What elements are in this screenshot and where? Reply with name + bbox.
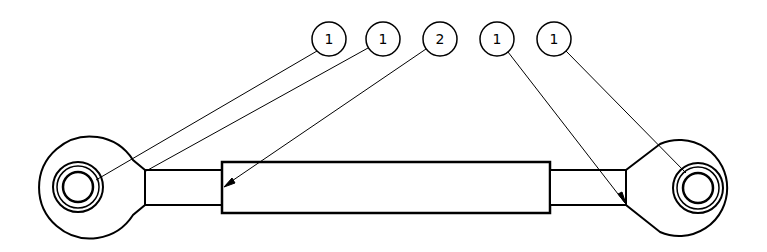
- left-threaded-rod: [145, 170, 222, 205]
- right-threaded-rod: [550, 170, 626, 205]
- balloon-1: 1: [312, 22, 346, 56]
- balloon-label: 1: [325, 31, 334, 47]
- connecting-tube: [222, 162, 550, 213]
- balloon-2: 1: [366, 22, 400, 56]
- balloon-label: 1: [379, 31, 388, 47]
- leader-line-1: [96, 51, 317, 180]
- balloon-label: 2: [436, 31, 445, 47]
- balloon-label: 1: [493, 31, 502, 47]
- balloon-label: 1: [550, 31, 559, 47]
- assembly-drawing: 1 1 2 1 1: [0, 0, 767, 252]
- balloon-3: 2: [423, 22, 457, 56]
- balloon-5: 1: [537, 22, 571, 56]
- leader-line-2: [146, 48, 368, 171]
- leader-line-5: [566, 51, 686, 173]
- balloon-4: 1: [480, 22, 514, 56]
